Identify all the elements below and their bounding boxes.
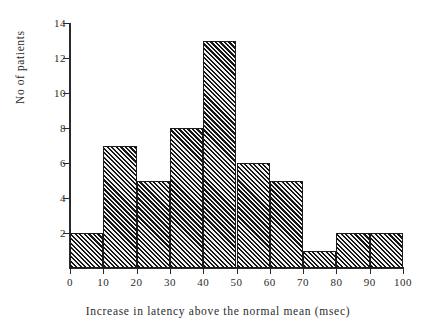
- x-axis-tick-label: 80: [330, 276, 342, 288]
- x-axis-tick-label: 60: [264, 276, 276, 288]
- histogram-bar: [137, 181, 170, 269]
- histogram-bar: [303, 251, 336, 269]
- histogram-bar: [203, 41, 236, 269]
- histogram-bar: [270, 181, 303, 269]
- x-axis-tick: [170, 268, 171, 274]
- histogram-bar: [237, 163, 270, 268]
- x-axis-tick-label: 40: [197, 276, 209, 288]
- histogram-bar: [336, 233, 369, 268]
- x-axis-tick-label: 100: [394, 276, 412, 288]
- histogram-bar: [370, 233, 403, 268]
- x-axis-tick-label: 70: [297, 276, 309, 288]
- x-axis-tick: [103, 268, 104, 274]
- x-axis-tick-label: 30: [164, 276, 176, 288]
- x-axis-tick: [403, 268, 404, 274]
- y-axis-tick-label: 8: [60, 122, 66, 134]
- x-axis-tick: [70, 268, 71, 274]
- x-axis-tick: [336, 268, 337, 274]
- y-axis-tick-label: 4: [60, 192, 66, 204]
- x-axis-tick: [203, 268, 204, 274]
- y-axis-tick-label: 12: [54, 52, 66, 64]
- x-axis-tick: [137, 268, 138, 274]
- histogram-bar: [70, 233, 103, 268]
- x-axis-tick: [270, 268, 271, 274]
- plot-area: 24681012140102030405060708090100: [70, 23, 403, 268]
- histogram-bar: [103, 146, 136, 269]
- x-axis-tick: [237, 268, 238, 274]
- y-axis-tick-label: 14: [54, 17, 66, 29]
- x-axis-tick-label: 90: [364, 276, 376, 288]
- x-axis-tick: [303, 268, 304, 274]
- histogram-chart: 24681012140102030405060708090100 No of p…: [0, 0, 436, 335]
- y-axis-tick-label: 6: [60, 157, 66, 169]
- x-axis-tick-label: 10: [97, 276, 109, 288]
- x-axis-tick: [370, 268, 371, 274]
- y-axis-tick-label: 10: [54, 87, 66, 99]
- x-axis-tick-label: 20: [131, 276, 143, 288]
- x-axis-tick-label: 0: [67, 276, 73, 288]
- y-axis-tick-label: 2: [60, 227, 66, 239]
- y-axis-title: No of patients: [14, 0, 26, 104]
- x-axis-tick-label: 50: [231, 276, 243, 288]
- x-axis-title: Increase in latency above the normal mea…: [0, 305, 436, 317]
- histogram-bar: [170, 128, 203, 268]
